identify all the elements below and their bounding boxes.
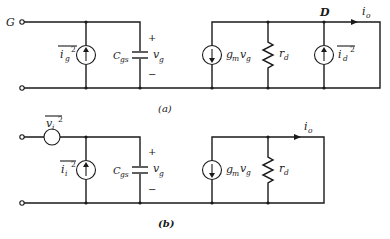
svg-text:g: g: [65, 54, 70, 63]
ground-terminal-b: [20, 201, 24, 205]
plus-sign-a: +: [148, 32, 156, 43]
caption-b: (b): [158, 218, 175, 229]
dependent-current-source-b: [203, 161, 222, 180]
svg-text:g: g: [159, 169, 164, 178]
circuit-b: v i 2 i i 2 C gs v g + −: [20, 115, 324, 229]
dependent-current-source-a: [203, 46, 222, 65]
input-noise-current-source: [77, 161, 96, 180]
svg-text:m: m: [232, 169, 239, 178]
circuit-figure: G i g 2 C gs v g + −: [0, 0, 390, 239]
svg-text:2: 2: [58, 115, 63, 124]
svg-text:m: m: [232, 54, 239, 63]
source-terminal-a: [20, 86, 24, 90]
minus-sign-a: −: [148, 69, 156, 80]
output-current-arrow-icon: [351, 19, 358, 25]
gate-label: G: [6, 16, 15, 29]
io-label-a: i: [362, 5, 366, 18]
svg-text:d: d: [343, 54, 348, 63]
svg-text:g: g: [246, 168, 251, 177]
resistor-zigzag-icon: [263, 22, 273, 88]
svg-text:gs: gs: [120, 55, 129, 64]
gate-terminal: [20, 20, 24, 24]
input-noise-voltage-label: v i 2: [45, 115, 63, 132]
svg-text:g: g: [246, 54, 251, 63]
svg-text:i: i: [52, 123, 55, 132]
svg-text:+: +: [148, 146, 156, 157]
svg-text:o: o: [366, 11, 371, 20]
svg-text:o: o: [308, 126, 313, 135]
svg-text:d: d: [284, 168, 289, 177]
gate-noise-label: i g 2: [58, 45, 77, 63]
input-noise-current-label: i i 2: [60, 160, 76, 178]
circuit-a: G i g 2 C gs v g + −: [6, 5, 380, 114]
svg-text:2: 2: [71, 45, 76, 54]
io-label-b: i: [304, 120, 308, 133]
svg-text:i: i: [60, 48, 64, 61]
svg-text:i: i: [65, 169, 68, 178]
svg-text:−: −: [148, 184, 156, 195]
svg-text:g: g: [159, 55, 164, 64]
caption-a: (a): [158, 103, 172, 114]
svg-text:2: 2: [71, 160, 76, 169]
drain-noise-label: i d 2: [337, 45, 355, 63]
svg-text:i: i: [61, 163, 65, 176]
svg-text:d: d: [284, 53, 289, 62]
svg-text:i: i: [338, 48, 342, 61]
capacitor-cgs-a: [132, 52, 148, 58]
gate-noise-current-source: [77, 46, 96, 65]
output-current-arrow-icon: [294, 134, 301, 140]
capacitor-cgs-b: [132, 167, 148, 173]
resistor-zigzag-icon: [263, 137, 273, 203]
drain-noise-current-source: [315, 46, 334, 65]
input-terminal-b: [20, 135, 24, 139]
svg-text:gs: gs: [120, 170, 129, 179]
drain-label: D: [319, 6, 330, 19]
svg-text:2: 2: [350, 45, 355, 54]
